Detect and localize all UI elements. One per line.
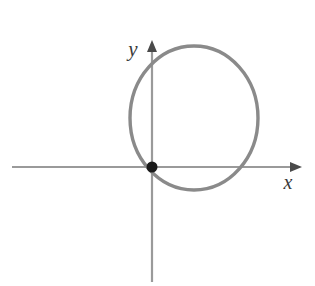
y-axis-label: y bbox=[126, 37, 138, 61]
math-figure-canvas: y x bbox=[0, 0, 315, 286]
x-axis-label: x bbox=[283, 171, 293, 193]
origin-point-marker bbox=[147, 162, 158, 173]
y-axis-arrow-icon bbox=[147, 40, 157, 52]
coordinate-plane-svg: y x bbox=[0, 0, 315, 286]
